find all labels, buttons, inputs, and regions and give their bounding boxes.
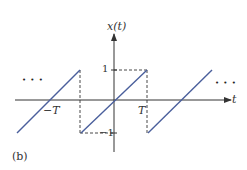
tick-label-y-neg: −1 (99, 127, 114, 138)
tick-label-x-pos: T (138, 104, 145, 117)
tick-label-x-neg: −T (43, 104, 60, 117)
x-axis-label: t (232, 93, 236, 106)
ellipsis-left: • • • (22, 76, 44, 84)
tick-label-y-pos: 1 (102, 63, 108, 74)
y-axis-label: x(t) (107, 20, 126, 33)
figure-label: (b) (12, 150, 28, 163)
ellipsis-right: • • • (215, 79, 237, 87)
segment-right (148, 70, 212, 133)
